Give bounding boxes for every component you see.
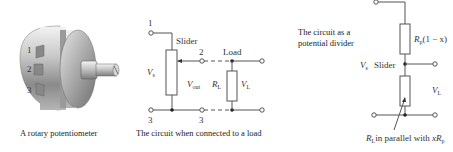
vs-label: Vs xyxy=(147,67,156,78)
caption-line-2: potential divider xyxy=(298,38,354,49)
rl-label: RL xyxy=(211,79,222,90)
slider-label: Slider xyxy=(176,36,198,46)
caption-circuit-with-load: The circuit when connected to a load xyxy=(136,128,262,138)
rotary-potentiometer-drawing xyxy=(20,26,119,110)
terminal-tab-1 xyxy=(36,45,44,58)
caption-rotary-potentiometer: A rotary potentiometer xyxy=(20,128,97,138)
vout-label: Vout xyxy=(187,79,201,90)
tab-label-2: 2 xyxy=(27,64,32,74)
caption-potential-divider: The circuit as a potential divider xyxy=(298,27,354,49)
upper-resistor xyxy=(400,24,410,54)
tab-label-1: 1 xyxy=(27,45,32,55)
caption-line-1: The circuit as a xyxy=(298,27,354,38)
terminal-2-label: 2 xyxy=(199,47,204,57)
vl-label: VL xyxy=(241,79,251,90)
terminal-tab-3 xyxy=(36,83,44,96)
vl-divider-label: VL xyxy=(432,85,442,96)
load-label: Load xyxy=(223,47,242,57)
terminal-3-right-label: 3 xyxy=(199,115,204,125)
terminal-3-left-label: 3 xyxy=(148,115,153,125)
circuit-with-load xyxy=(149,31,264,112)
rl-parallel-note: RLin parallel with xRp xyxy=(365,133,444,144)
terminal-1-label: 1 xyxy=(148,18,153,28)
slider-divider-label: Slider xyxy=(374,60,396,70)
rp-upper-label: Rp(1 − x) xyxy=(413,34,447,45)
terminal-tab-2 xyxy=(34,64,43,75)
vs-divider-label: Vs xyxy=(360,60,369,71)
tab-label-3: 3 xyxy=(27,85,32,95)
